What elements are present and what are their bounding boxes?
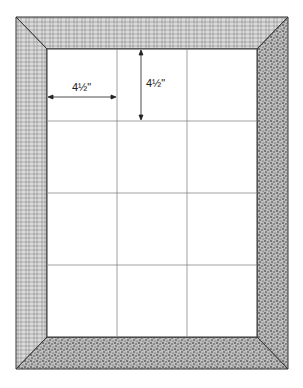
quilt-diagram — [0, 0, 303, 388]
border-right — [257, 17, 288, 369]
vertical-dimension-label: 4½" — [146, 77, 165, 89]
horizontal-dimension-label: 4½" — [72, 81, 91, 93]
border-left — [16, 17, 47, 369]
border-top — [16, 17, 288, 49]
border-bottom — [16, 337, 288, 369]
